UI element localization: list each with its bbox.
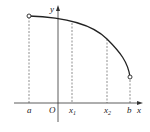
point-label-x1: x1 xyxy=(68,105,76,116)
function-diagram: y x O a x1 x2 b xyxy=(0,0,150,132)
x-axis-label: x xyxy=(136,105,141,115)
function-curve xyxy=(29,16,130,77)
point-label-a: a xyxy=(27,105,32,115)
y-axis-label: y xyxy=(49,4,54,14)
point-label-x2: x2 xyxy=(103,105,111,116)
origin-label: O xyxy=(49,105,56,115)
y-axis-arrow-icon xyxy=(56,5,60,11)
open-endpoint-a xyxy=(27,14,31,18)
open-endpoint-b xyxy=(128,75,132,79)
point-label-b: b xyxy=(127,105,132,115)
